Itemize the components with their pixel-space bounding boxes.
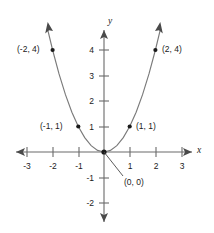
point-label-0-0: (0, 0) [124, 178, 144, 187]
y-axis-label: y [108, 17, 112, 27]
y-tick-label-3: 3 [76, 72, 94, 81]
point-label-1-1: (1, 1) [136, 122, 156, 131]
graph-figure: (-2, 4) (-1, 1) (0, 0) (1, 1) (2, 4) y x… [0, 0, 214, 233]
parabola-plot [0, 0, 214, 233]
x-tick-label--2: -2 [43, 162, 63, 171]
x-axis-label: x [197, 146, 201, 156]
point-label-2-4: (2, 4) [162, 45, 182, 54]
point-label--2-4: (-2, 4) [17, 45, 40, 54]
point-1-1 [128, 124, 132, 128]
y-tick-label-1: 1 [76, 123, 94, 132]
right-branch-arrow-icon [155, 22, 163, 34]
point-2-4 [153, 48, 157, 52]
point--2-4 [51, 48, 55, 52]
x-tick-label--3: -3 [17, 162, 37, 171]
y-tick-label-2: 2 [76, 97, 94, 106]
x-tick-label-2: 2 [146, 162, 166, 171]
x-tick-label-1: 1 [120, 162, 140, 171]
y-tick-label-4: 4 [76, 46, 94, 55]
point-label--1-1: (-1, 1) [40, 122, 63, 131]
left-branch-arrow-icon [45, 22, 53, 34]
y-tick-label--2: -2 [72, 199, 94, 208]
x-tick-label--1: -1 [69, 162, 89, 171]
y-tick-label--1: -1 [72, 174, 94, 183]
x-tick-label-3: 3 [172, 162, 192, 171]
